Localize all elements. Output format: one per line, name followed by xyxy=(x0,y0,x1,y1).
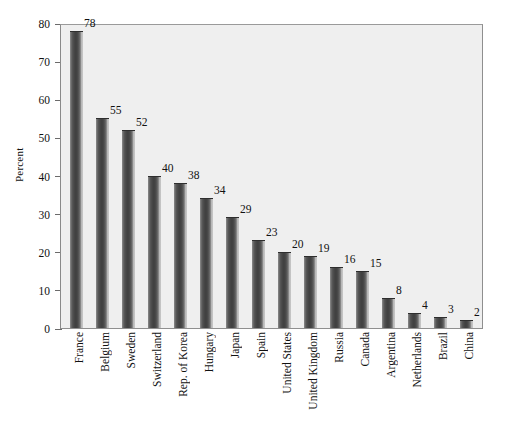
x-axis-category-label: Belgium xyxy=(92,332,118,434)
bar-item[interactable]: 55 xyxy=(93,23,119,328)
bar[interactable] xyxy=(460,320,473,328)
x-axis-category-text: Russia xyxy=(333,332,345,363)
x-axis-category-text: Belgium xyxy=(99,332,111,372)
bar-item[interactable]: 52 xyxy=(119,23,145,328)
bar-item[interactable]: 38 xyxy=(171,23,197,328)
x-axis-category-text: United States xyxy=(281,332,293,394)
y-axis-tick-label: 60 xyxy=(39,92,51,108)
x-axis-category-label: Japan xyxy=(222,332,248,434)
x-axis-category-label: France xyxy=(66,332,92,434)
y-axis-tick-label: 70 xyxy=(39,54,51,70)
bar-item[interactable]: 34 xyxy=(197,23,223,328)
bar[interactable] xyxy=(96,118,109,328)
x-axis-category-text: Japan xyxy=(229,332,241,358)
bar-item[interactable]: 4 xyxy=(405,23,431,328)
x-axis-category-label: United Kingdom xyxy=(300,332,326,434)
x-axis-category-text: Rep. of Korea xyxy=(177,332,189,397)
bar-item[interactable]: 3 xyxy=(431,23,457,328)
bar-item[interactable]: 40 xyxy=(145,23,171,328)
x-axis-category-text: Argentina xyxy=(385,332,397,378)
plot-area: 7855524038342923201916158432 xyxy=(60,24,483,329)
bar[interactable] xyxy=(252,240,265,328)
x-axis-labels: FranceBelgiumSwedenSwitzerlandRep. of Ko… xyxy=(60,332,483,437)
x-axis-category-text: Sweden xyxy=(125,332,137,368)
x-axis-category-label: Brazil xyxy=(430,332,456,434)
y-axis-tick-label: 10 xyxy=(39,283,51,299)
x-axis-category-label: Netherlands xyxy=(404,332,430,434)
bar[interactable] xyxy=(200,198,213,328)
bar-item[interactable]: 19 xyxy=(301,23,327,328)
x-axis-category-label: Switzerland xyxy=(144,332,170,434)
bar[interactable] xyxy=(408,313,421,328)
bar-value-label: 3 xyxy=(448,303,454,316)
x-axis-category-label: China xyxy=(456,332,482,434)
bar[interactable] xyxy=(148,176,161,329)
x-axis-category-label: Russia xyxy=(326,332,352,434)
bar-item[interactable]: 20 xyxy=(275,23,301,328)
y-axis-tick-label: 20 xyxy=(39,245,51,261)
bar[interactable] xyxy=(304,256,317,328)
y-axis-tick-label: 80 xyxy=(39,16,51,32)
bar[interactable] xyxy=(278,252,291,328)
bar-value-label: 8 xyxy=(396,284,402,297)
x-axis-category-label: Argentina xyxy=(378,332,404,434)
bar-item[interactable]: 16 xyxy=(327,23,353,328)
x-axis-category-text: Spain xyxy=(255,332,267,358)
x-axis-category-label: Canada xyxy=(352,332,378,434)
x-axis-category-label: Sweden xyxy=(118,332,144,434)
bar[interactable] xyxy=(330,267,343,328)
bar-value-label: 2 xyxy=(474,306,480,319)
bar-item[interactable]: 15 xyxy=(353,23,379,328)
bar[interactable] xyxy=(434,317,447,328)
bar[interactable] xyxy=(122,130,135,328)
x-axis-category-text: Netherlands xyxy=(411,332,423,388)
y-axis-tick-label: 30 xyxy=(39,207,51,223)
y-axis-tick-label: 0 xyxy=(44,321,50,337)
bar-item[interactable]: 78 xyxy=(67,23,93,328)
bar[interactable] xyxy=(382,298,395,329)
bar-item[interactable]: 8 xyxy=(379,23,405,328)
x-axis-category-label: Rep. of Korea xyxy=(170,332,196,434)
x-axis-category-text: France xyxy=(73,332,85,363)
bar[interactable] xyxy=(70,31,83,328)
bar[interactable] xyxy=(174,183,187,328)
y-axis-ticks: 01020304050607080 xyxy=(0,0,62,437)
bar[interactable] xyxy=(356,271,369,328)
x-axis-category-text: Switzerland xyxy=(151,332,163,387)
x-axis-category-label: Hungary xyxy=(196,332,222,434)
x-axis-category-text: Hungary xyxy=(203,332,215,372)
bar-item[interactable]: 29 xyxy=(223,23,249,328)
bar-series: 7855524038342923201916158432 xyxy=(61,25,482,328)
x-axis-category-text: Brazil xyxy=(437,332,449,360)
y-axis-tick-label: 50 xyxy=(39,130,51,146)
bar-item[interactable]: 2 xyxy=(457,23,483,328)
x-axis-category-label: Spain xyxy=(248,332,274,434)
bar[interactable] xyxy=(226,217,239,328)
bar-item[interactable]: 23 xyxy=(249,23,275,328)
y-axis-tick-label: 40 xyxy=(39,169,51,185)
x-axis-category-text: China xyxy=(463,332,475,359)
bar-chart-figure: Percent 01020304050607080 78555240383429… xyxy=(0,0,505,437)
x-axis-category-label: United States xyxy=(274,332,300,434)
x-axis-category-text: Canada xyxy=(359,332,371,366)
bar-value-label: 4 xyxy=(422,299,428,312)
x-axis-category-text: United Kingdom xyxy=(307,332,319,410)
